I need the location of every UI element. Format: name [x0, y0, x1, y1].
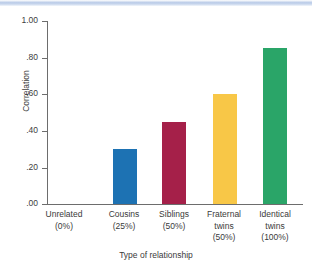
x-category-unrelated-line1: Unrelated — [30, 209, 98, 221]
y-tick-label-1.00: 1.00 — [0, 16, 38, 25]
y-tick-label-0.00: .00 — [0, 199, 38, 208]
x-category-identical-twins: Identical twins (100%) — [241, 209, 309, 244]
x-axis-title: Type of relationship — [0, 250, 312, 260]
bar-identical-twins — [263, 48, 287, 204]
plot-area — [47, 21, 303, 204]
bar-cousins — [113, 149, 137, 204]
y-tick-mark-0.00 — [42, 204, 47, 205]
x-category-identical-twins-line3: (100%) — [241, 232, 309, 244]
x-category-unrelated-line2: (0%) — [30, 221, 98, 233]
y-axis-title: Correlation — [21, 46, 31, 136]
x-category-unrelated: Unrelated (0%) — [30, 209, 98, 232]
y-tick-label-0.20: .20 — [0, 163, 38, 172]
header-accent-band — [0, 0, 312, 6]
x-category-identical-twins-line2: twins — [241, 221, 309, 233]
bar-fraternal-twins — [213, 94, 237, 204]
bar-chart-figure: 1.00 .80 .60 .40 .20 .00 Correlation Unr… — [0, 0, 312, 267]
x-axis-line — [47, 204, 303, 205]
bar-siblings — [162, 122, 186, 204]
y-tick-label-0.80: .80 — [0, 53, 38, 62]
y-tick-label-0.40: .40 — [0, 126, 38, 135]
y-tick-label-0.60: .60 — [0, 89, 38, 98]
x-category-identical-twins-line1: Identical — [241, 209, 309, 221]
